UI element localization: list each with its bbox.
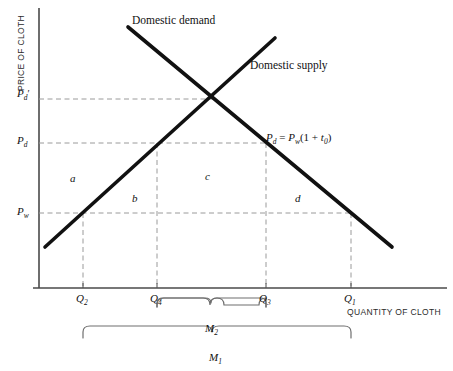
brace-label-m1: M1 — [209, 351, 222, 366]
price-tick-pd-prime-base: P — [17, 87, 24, 99]
tariff-equation-open: (1 + — [300, 131, 321, 143]
qty-tick-q1-base: Q — [344, 292, 352, 304]
qty-tick-q4: Q4 — [150, 292, 162, 307]
qty-tick-q2: Q2 — [76, 292, 88, 307]
tariff-equation-rhs-base: P — [288, 131, 295, 143]
region-label-a: a — [70, 172, 76, 184]
brace-label-m2-base: M — [205, 322, 214, 334]
region-label-d: d — [295, 192, 301, 204]
qty-tick-q2-sub: 2 — [84, 298, 88, 307]
qty-tick-q3-sub: 3 — [267, 298, 271, 307]
y-axis-title: PRICE OF CLOTH — [14, 10, 28, 96]
brace-label-m2: M2 — [205, 322, 218, 337]
price-tick-pw-base: P — [17, 205, 24, 217]
tariff-equation-equals: = — [276, 131, 288, 143]
qty-tick-q1: Q1 — [344, 292, 356, 307]
brace-label-m1-sub: 1 — [218, 357, 222, 366]
tariff-equation-lhs-base: P — [266, 131, 273, 143]
qty-tick-q4-sub: 4 — [158, 298, 162, 307]
domestic-supply-label: Domestic supply — [250, 59, 328, 71]
domestic-demand-label: Domestic demand — [132, 14, 215, 26]
price-tick-pd: Pd — [17, 134, 27, 149]
supply-demand-tariff-figure: PRICE OF CLOTH QUANTITY OF CLOTH Domesti… — [0, 0, 453, 371]
qty-tick-q3-base: Q — [259, 292, 267, 304]
qty-tick-q1-sub: 1 — [352, 298, 356, 307]
brace-label-m1-base: M — [209, 351, 218, 363]
domestic-supply-curve — [45, 38, 275, 247]
tariff-equation: Pd = Pw(1 + t0) — [266, 131, 331, 146]
price-tick-pw: Pw — [17, 205, 29, 220]
price-tick-pw-sub: w — [24, 211, 29, 220]
price-tick-pd-prime-mark: ′ — [27, 88, 29, 99]
x-axis-title: QUANTITY OF CLOTH — [347, 307, 441, 317]
region-label-c: c — [205, 170, 210, 182]
brace-label-m2-sub: 2 — [214, 328, 218, 337]
price-tick-pd-prime: Pd′ — [17, 87, 30, 102]
qty-tick-q2-base: Q — [76, 292, 84, 304]
price-tick-pd-base: P — [17, 134, 24, 146]
qty-tick-q3: Q3 — [259, 292, 271, 307]
qty-tick-q4-base: Q — [150, 292, 158, 304]
price-tick-pd-sub: d — [24, 140, 28, 149]
y-axis-title-text: PRICE OF CLOTH — [16, 15, 26, 91]
region-label-b: b — [132, 192, 138, 204]
tariff-equation-close: ) — [328, 131, 332, 143]
